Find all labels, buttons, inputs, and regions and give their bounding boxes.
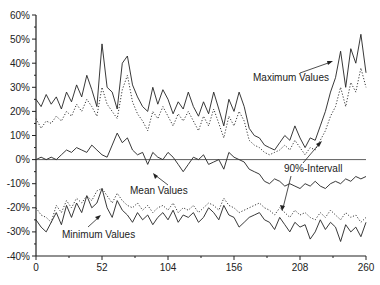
arrow-interval-lower (283, 176, 291, 208)
y-tick-label: -30% (7, 226, 30, 237)
x-tick-label: 0 (33, 262, 39, 273)
y-tick-label: -40% (7, 251, 30, 262)
x-tick-label: 104 (160, 262, 177, 273)
y-tick-label: 20% (10, 106, 30, 117)
label-90-interval: 90%-Intervall (284, 163, 342, 174)
arrowhead-interval-lower (280, 205, 285, 211)
series-90-intervall-lower (36, 189, 366, 223)
label-mean-values: Mean Values (130, 185, 188, 196)
y-tick-label: 60% (10, 10, 30, 21)
x-tick-label: 52 (96, 262, 108, 273)
y-tick-label: 30% (10, 82, 30, 93)
y-tick-label: 0% (16, 154, 31, 165)
arrowhead-maximum (327, 61, 333, 65)
arrowhead-minimum (95, 215, 101, 220)
x-tick-label: 260 (358, 262, 375, 273)
series-maximum-values (36, 34, 366, 150)
series-lines (36, 34, 366, 241)
label-minimum-values: Minimum Values (62, 229, 135, 240)
y-tick-label: 50% (10, 34, 30, 45)
x-tick-label: 208 (292, 262, 309, 273)
x-tick-label: 156 (226, 262, 243, 273)
y-tick-label: -10% (7, 178, 30, 189)
y-tick-label: 40% (10, 58, 30, 69)
arrowhead-mean (153, 173, 158, 179)
y-tick-label: -20% (7, 202, 30, 213)
label-maximum-values: Maximum Values (253, 72, 329, 83)
series-mean-values (36, 133, 366, 188)
chart-canvas: -40%-30%-20%-10%0%10%20%30%40%50%60%0521… (0, 0, 380, 285)
y-tick-label: 10% (10, 130, 30, 141)
